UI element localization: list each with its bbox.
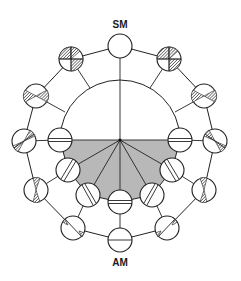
node-upper-left-2 (23, 84, 48, 108)
node-inner-left-1 (56, 158, 80, 182)
node-inner-right-0 (168, 128, 192, 152)
node-sm (108, 34, 132, 58)
node-am (108, 228, 132, 252)
node-inner-right-1 (160, 158, 184, 182)
node-lower-right-1 (192, 177, 216, 202)
sm-label: SM (113, 19, 128, 30)
node-lower-left-1 (24, 177, 48, 202)
node-upper-right-2 (191, 84, 216, 108)
center-point (118, 138, 121, 141)
node-inner-right-2 (140, 183, 164, 207)
stereographic-ring-diagram: SM AM (0, 0, 241, 281)
node-upper-left-1 (59, 47, 83, 71)
node-inner-left-2 (76, 183, 100, 207)
node-inner-left-0 (48, 128, 72, 152)
am-label: AM (112, 257, 128, 268)
node-inner-bottom (108, 190, 132, 214)
node-right-mid (203, 129, 227, 153)
node-left-mid (12, 129, 36, 153)
node-lower-right-2 (155, 216, 179, 240)
node-lower-left-2 (61, 216, 85, 240)
node-upper-right-1 (157, 47, 181, 71)
